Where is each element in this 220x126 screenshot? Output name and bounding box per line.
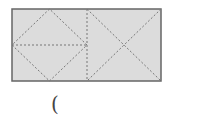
geometry-figure	[0, 0, 220, 126]
answer-parenthesis: (	[51, 94, 59, 114]
